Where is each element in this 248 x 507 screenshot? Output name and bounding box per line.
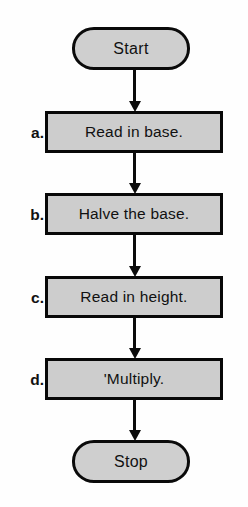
step-marker-c: c. [18, 290, 44, 306]
flowchart-node-a: Read in base. [45, 111, 223, 153]
connector-shaft [133, 399, 136, 431]
connector-c-to-d [131, 317, 138, 359]
node-a-label: Read in base. [85, 124, 183, 140]
connector-shaft [133, 69, 136, 102]
connector-b-to-c [131, 234, 138, 277]
connector-start-to-a [131, 69, 138, 112]
step-marker-a: a. [18, 125, 44, 141]
connector-d-to-stop [131, 399, 138, 441]
connector-shaft [133, 234, 136, 267]
flowchart-node-b: Halve the base. [45, 193, 223, 235]
connector-shaft [133, 317, 136, 349]
node-d-label: 'Multiply. [104, 371, 165, 387]
flowchart-node-stop: Stop [72, 440, 190, 483]
node-b-label: Halve the base. [79, 206, 190, 222]
step-marker-d: d. [18, 372, 44, 388]
node-stop-label: Stop [114, 453, 148, 469]
flowchart-node-c: Read in height. [45, 276, 223, 318]
node-start-label: Start [113, 40, 148, 56]
node-c-label: Read in height. [80, 289, 187, 305]
connector-shaft [133, 152, 136, 184]
flowchart-node-d: 'Multiply. [45, 358, 223, 400]
flowchart-diagram: Start a. Read in base. b. Halve the base… [0, 0, 248, 507]
connector-a-to-b [131, 152, 138, 194]
flowchart-node-start: Start [72, 27, 190, 70]
step-marker-b: b. [18, 207, 44, 223]
